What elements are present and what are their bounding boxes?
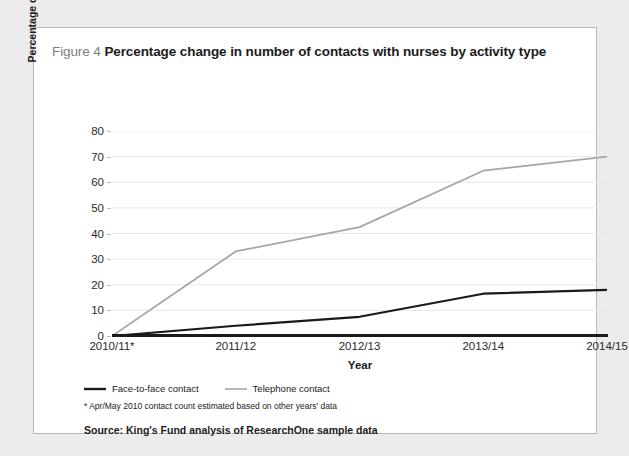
y-axis-tick-label: 60 [68, 176, 104, 188]
x-axis-tick-label: 2013/14 [428, 340, 538, 352]
y-axis-tick-mark [107, 285, 111, 286]
series-line [112, 290, 607, 336]
y-axis-tick-label: 70 [68, 151, 104, 163]
y-axis-tick-label: 30 [68, 253, 104, 265]
y-axis-tick-mark [107, 259, 111, 260]
y-axis-tick-label: 20 [68, 279, 104, 291]
legend-color-swatch [225, 385, 247, 393]
y-axis-title: Percentage change in number of contacts [26, 0, 38, 68]
x-axis-tick-label: 2014/15 [552, 340, 629, 352]
y-axis-tick-label: 80 [68, 125, 104, 137]
chart-legend: Face-to-face contactTelephone contact [84, 383, 330, 394]
y-axis-tick-label: 10 [68, 304, 104, 316]
figure-source: Source: King's Fund analysis of Research… [84, 424, 378, 436]
figure-footnote: * Apr/May 2010 contact count estimated b… [84, 401, 337, 411]
legend-item[interactable]: Face-to-face contact [84, 383, 199, 394]
x-axis-tick-label: 2010/11* [57, 340, 167, 352]
legend-label: Telephone contact [253, 383, 330, 394]
x-axis-line [112, 334, 608, 337]
y-axis-tick-mark [107, 157, 111, 158]
y-axis-tick-label: 50 [68, 202, 104, 214]
legend-item[interactable]: Telephone contact [225, 383, 330, 394]
y-axis-tick-label: 40 [68, 228, 104, 240]
y-axis-tick-mark [107, 182, 111, 183]
x-axis-tick-label: 2011/12 [181, 340, 291, 352]
y-axis-tick-mark [107, 208, 111, 209]
legend-label: Face-to-face contact [112, 383, 199, 394]
y-axis-tick-mark [107, 131, 111, 132]
line-chart-svg [112, 131, 607, 336]
y-axis-tick-mark [107, 336, 111, 337]
figure-label: Figure 4 [52, 44, 101, 59]
chart-plot-area [112, 131, 607, 336]
legend-color-swatch [84, 385, 106, 393]
gridlines [112, 131, 607, 310]
x-axis-tick-label: 2012/13 [305, 340, 415, 352]
series-line [112, 157, 607, 336]
x-axis-title: Year [112, 359, 608, 371]
y-axis-tick-mark [107, 310, 111, 311]
figure-card: Figure 4 Percentage change in number of … [33, 27, 597, 434]
page-title: Figure 4 Percentage change in number of … [52, 42, 572, 61]
y-axis-tick-mark [107, 234, 111, 235]
data-series-lines [112, 157, 607, 336]
figure-title-text: Percentage change in number of contacts … [104, 44, 546, 59]
